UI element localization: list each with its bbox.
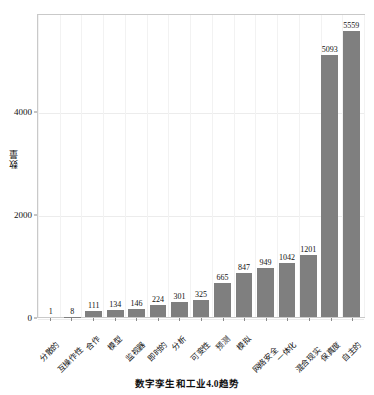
bar[interactable] bbox=[300, 255, 317, 317]
bar[interactable] bbox=[279, 263, 296, 317]
bar-value-label: 665 bbox=[216, 273, 228, 282]
x-tick-label-text: 互操作性 bbox=[56, 346, 85, 375]
bar-slot: 665 bbox=[212, 15, 233, 317]
x-tick-mark bbox=[352, 318, 353, 321]
x-tick-mark bbox=[93, 318, 94, 321]
x-tick-label-text: 合作 bbox=[84, 334, 102, 352]
vertical-gridline bbox=[364, 15, 365, 317]
x-label-slot: 合作 bbox=[82, 318, 104, 374]
bar-slot: 111 bbox=[83, 15, 104, 317]
bar-slot: 949 bbox=[255, 15, 276, 317]
y-tick-label: 4000 bbox=[14, 107, 32, 117]
bar-slot: 847 bbox=[233, 15, 254, 317]
bar[interactable] bbox=[321, 55, 338, 317]
bar-value-label: 224 bbox=[152, 295, 164, 304]
x-tick-mark bbox=[136, 318, 137, 321]
bar-value-label: 5093 bbox=[322, 45, 338, 54]
bar-value-label: 949 bbox=[259, 258, 271, 267]
bar-slot: 224 bbox=[147, 15, 168, 317]
x-tick-label-text: 分析 bbox=[171, 334, 189, 352]
bar[interactable] bbox=[257, 268, 274, 317]
x-tick-mark bbox=[201, 318, 202, 321]
bar-value-label: 847 bbox=[238, 263, 250, 272]
x-tick-mark bbox=[331, 318, 332, 321]
bar-value-label: 1042 bbox=[279, 253, 295, 262]
bar-value-label: 1201 bbox=[300, 245, 316, 254]
bar[interactable] bbox=[85, 311, 102, 317]
x-label-slot: 预测 bbox=[212, 318, 234, 374]
x-tick-label-text: 即时的 bbox=[146, 340, 169, 363]
x-axis-tick-labels: 分散的互操作性合作模型监视器即时的分析可变性预测模拟网络安全一体化混合现实保真度… bbox=[37, 318, 365, 374]
bar[interactable] bbox=[171, 302, 188, 318]
x-label-slot: 保真度 bbox=[320, 318, 342, 374]
x-tick-label-text: 预测 bbox=[214, 334, 232, 352]
x-label-slot: 互操作性 bbox=[61, 318, 83, 374]
bar-slot: 5559 bbox=[341, 15, 362, 317]
x-tick-label-text: 混合现实 bbox=[294, 346, 323, 375]
x-tick-mark bbox=[179, 318, 180, 321]
x-tick-mark bbox=[287, 318, 288, 321]
x-label-slot: 可变性 bbox=[190, 318, 212, 374]
bar-value-label: 301 bbox=[174, 292, 186, 301]
bar-slot: 146 bbox=[126, 15, 147, 317]
bar-slot: 325 bbox=[190, 15, 211, 317]
bar-value-label: 134 bbox=[109, 300, 121, 309]
chart-title: 数字孪生和工业4.0趋势 bbox=[0, 376, 374, 390]
x-tick-mark bbox=[309, 318, 310, 321]
x-tick-label-text: 保真度 bbox=[319, 340, 342, 363]
bar[interactable] bbox=[193, 300, 210, 317]
x-tick-label-text: 一体化 bbox=[275, 340, 298, 363]
bar[interactable] bbox=[150, 305, 167, 317]
bar-series: 1811113414622430132566584794910421201509… bbox=[38, 15, 364, 317]
x-label-slot: 自主的 bbox=[341, 318, 363, 374]
bar-value-label: 8 bbox=[70, 307, 74, 316]
x-tick-mark bbox=[244, 318, 245, 321]
bar-value-label: 325 bbox=[195, 290, 207, 299]
x-tick-mark bbox=[223, 318, 224, 321]
bar-chart-figure: 数量 020004000 181111341462243013256658479… bbox=[0, 0, 374, 395]
y-tick-label: 2000 bbox=[14, 210, 32, 220]
x-label-slot: 即时的 bbox=[147, 318, 169, 374]
y-tick-label: 0 bbox=[28, 313, 33, 323]
bar-slot: 5093 bbox=[319, 15, 340, 317]
x-tick-mark bbox=[115, 318, 116, 321]
bar[interactable] bbox=[107, 310, 124, 317]
bar-value-label: 5559 bbox=[343, 21, 359, 30]
bar-slot: 301 bbox=[169, 15, 190, 317]
x-label-slot: 网络安全 bbox=[255, 318, 277, 374]
x-tick-label-text: 模型 bbox=[106, 334, 124, 352]
x-tick-label-text: 监视器 bbox=[124, 340, 147, 363]
bar[interactable] bbox=[128, 309, 145, 317]
bar-slot: 1042 bbox=[276, 15, 297, 317]
x-tick-label-text: 网络安全 bbox=[250, 346, 279, 375]
bar-value-label: 1 bbox=[49, 307, 53, 316]
plot-area: 1811113414622430132566584794910421201509… bbox=[37, 14, 365, 318]
bar-value-label: 146 bbox=[131, 299, 143, 308]
x-label-slot: 模型 bbox=[104, 318, 126, 374]
x-label-slot: 监视器 bbox=[125, 318, 147, 374]
bar[interactable] bbox=[343, 31, 360, 317]
bar-slot: 134 bbox=[104, 15, 125, 317]
bar[interactable] bbox=[236, 273, 253, 317]
x-tick-label-text: 可变性 bbox=[189, 340, 212, 363]
y-axis-tick-labels: 020004000 bbox=[0, 14, 37, 318]
x-tick-mark bbox=[71, 318, 72, 321]
bar-slot: 1 bbox=[40, 15, 61, 317]
x-label-slot: 混合现实 bbox=[298, 318, 320, 374]
x-tick-label-text: 自主的 bbox=[340, 340, 363, 363]
x-tick-label: 自主的 bbox=[357, 323, 374, 346]
x-label-slot: 分析 bbox=[169, 318, 191, 374]
x-tick-mark bbox=[266, 318, 267, 321]
bar-value-label: 111 bbox=[88, 301, 99, 310]
bar-slot: 8 bbox=[61, 15, 82, 317]
x-tick-label-text: 模拟 bbox=[236, 334, 254, 352]
x-tick-label-text: 分散的 bbox=[38, 340, 61, 363]
x-tick-mark bbox=[50, 318, 51, 321]
bar[interactable] bbox=[214, 283, 231, 317]
x-tick-mark bbox=[158, 318, 159, 321]
bar-slot: 1201 bbox=[298, 15, 319, 317]
